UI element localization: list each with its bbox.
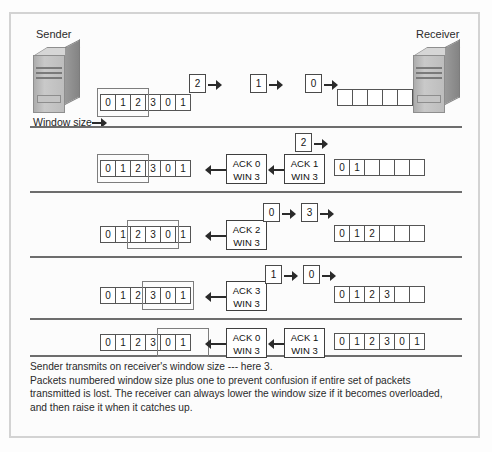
- sender-window-box-row-5: [157, 328, 209, 357]
- receiver-slot-cell: [379, 159, 395, 176]
- receiver-slot-cell: 2: [364, 225, 380, 242]
- receiver-slot-cell: 1: [349, 159, 365, 176]
- receiver-slot-cell: 2: [364, 286, 380, 303]
- ack-box: ACK 1 WIN 3: [284, 154, 325, 184]
- packet-box: 3: [301, 203, 318, 222]
- receiver-slot-cell: 1: [409, 333, 425, 350]
- ack-line: ACK 0: [227, 331, 266, 344]
- receiver-slot-cell: [367, 89, 383, 106]
- ack-box: ACK 1 WIN 3: [284, 328, 325, 358]
- receiver-slot-cell: [394, 286, 410, 303]
- sender-slot-cell: 1: [115, 334, 131, 351]
- ack-box: ACK 2 WIN 3: [226, 220, 267, 250]
- receiver-slot-cell: [382, 89, 398, 106]
- receiver-slot-cell: [409, 286, 425, 303]
- packet-box: 0: [305, 74, 322, 93]
- packet-box: 1: [265, 265, 282, 284]
- receiver-host-icon: [413, 47, 461, 113]
- win-line: WIN 3: [285, 344, 324, 357]
- receiver-slot-cell: 0: [334, 286, 350, 303]
- sender-label: Sender: [36, 28, 71, 40]
- receiver-slot-cell: [394, 159, 410, 176]
- sender-window-box-row-3: [127, 220, 179, 249]
- receiver-slot-cell: 2: [364, 333, 380, 350]
- win-line: WIN 3: [285, 170, 324, 183]
- receiver-slot-cell: 1: [349, 225, 365, 242]
- figure-caption: Sender transmits on receiver's window si…: [30, 360, 458, 414]
- ack-line: ACK 3: [227, 284, 266, 297]
- receiver-label: Receiver: [416, 28, 459, 40]
- row-separator-3: [30, 256, 462, 258]
- ack-box: ACK 3 WIN 3: [226, 281, 267, 311]
- receiver-buffer-row-4: 0123: [334, 286, 425, 303]
- receiver-slot-cell: [397, 89, 413, 106]
- ack-line: ACK 1: [285, 157, 324, 170]
- sender-slot-cell: 0: [100, 287, 116, 304]
- caption-line-1: Sender transmits on receiver's window si…: [30, 360, 458, 374]
- receiver-slot-cell: 1: [349, 333, 365, 350]
- sender-slot-cell: 2: [130, 334, 146, 351]
- row-separator-1: [30, 126, 462, 128]
- caption-line-2: Packets numbered window size plus one to…: [30, 374, 458, 415]
- packet-box: 2: [189, 74, 206, 93]
- receiver-buffer-row-3: 012: [334, 225, 425, 242]
- win-line: WIN 3: [227, 236, 266, 249]
- sender-slot-cell: 1: [175, 94, 191, 111]
- sender-slot-cell: 0: [100, 226, 116, 243]
- row-separator-4: [30, 318, 462, 320]
- sender-window-box-row-4: [142, 281, 194, 310]
- receiver-buffer-row-2: 01: [334, 159, 425, 176]
- win-line: WIN 3: [227, 344, 266, 357]
- sender-host-icon: [33, 47, 81, 113]
- receiver-slot-cell: 0: [334, 225, 350, 242]
- receiver-slot-cell: 0: [394, 333, 410, 350]
- receiver-slot-cell: 1: [349, 286, 365, 303]
- receiver-slot-cell: 0: [334, 159, 350, 176]
- ack-line: ACK 1: [285, 331, 324, 344]
- ack-box: ACK 0 WIN 3: [226, 154, 267, 184]
- sender-slot-cell: 1: [175, 160, 191, 177]
- packet-box: 1: [250, 74, 267, 93]
- ack-box: ACK 0 WIN 3: [226, 328, 267, 358]
- packet-box: 0: [263, 203, 280, 222]
- receiver-slot-cell: [409, 225, 425, 242]
- receiver-slot-cell: [409, 159, 425, 176]
- receiver-slot-cell: [394, 225, 410, 242]
- packet-box: 2: [295, 133, 312, 152]
- sender-window-box-row-2: [97, 154, 149, 183]
- sliding-window-protocol-figure: Sender Receiver Window size 012301 2: [0, 0, 492, 452]
- win-line: WIN 3: [227, 170, 266, 183]
- receiver-slot-cell: 3: [379, 333, 395, 350]
- receiver-slot-cell: 3: [379, 286, 395, 303]
- row-separator-2: [30, 191, 462, 193]
- sender-window-box-row-1: [97, 88, 149, 117]
- sender-slot-cell: 0: [160, 160, 176, 177]
- sender-slot-cell: 0: [100, 334, 116, 351]
- ack-line: ACK 2: [227, 223, 266, 236]
- receiver-slot-cell: [364, 159, 380, 176]
- ack-line: ACK 0: [227, 157, 266, 170]
- receiver-slot-cell: [337, 89, 353, 106]
- receiver-buffer-row-1: [337, 89, 413, 106]
- win-line: WIN 3: [227, 297, 266, 310]
- packet-box: 0: [303, 265, 320, 284]
- receiver-slot-cell: 0: [334, 333, 350, 350]
- receiver-buffer-row-5: 012301: [334, 333, 425, 350]
- receiver-slot-cell: [379, 225, 395, 242]
- sender-slot-cell: 0: [160, 94, 176, 111]
- receiver-slot-cell: [352, 89, 368, 106]
- sender-slot-cell: 1: [115, 287, 131, 304]
